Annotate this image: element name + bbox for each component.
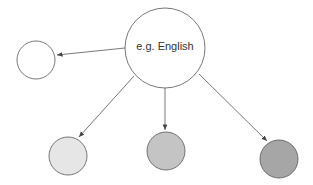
bottom-node-3 <box>260 140 298 178</box>
edge-root-b1 <box>79 76 134 137</box>
bottom-node-2 <box>147 132 185 170</box>
diagram: e.g. English <box>0 0 313 185</box>
root-label: e.g. English <box>125 40 205 52</box>
bottom-node-1 <box>49 137 87 175</box>
left-node <box>17 41 55 79</box>
edge-root-left <box>57 48 125 55</box>
edge-root-b3 <box>199 74 267 141</box>
